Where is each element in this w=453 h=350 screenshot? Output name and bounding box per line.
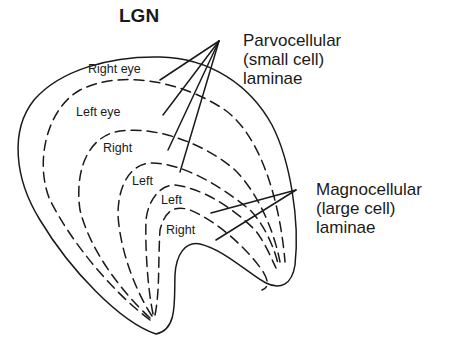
layer-label-right-eye: Right eye [88, 63, 141, 76]
magnocellular-callout: Magnocellular (large cell) laminae [316, 180, 422, 237]
parvocellular-line-1: Parvocellular [243, 31, 341, 50]
layer-label-left-4: Left [132, 175, 153, 188]
layer-label-right-6: Right [166, 224, 195, 237]
parvocellular-callout: Parvocellular (small cell) laminae [243, 31, 341, 88]
magnocellular-line-1: Magnocellular [316, 180, 422, 199]
magnocellular-pointer-lines [211, 190, 296, 240]
lgn-diagram [0, 0, 453, 350]
magnocellular-line-2: (large cell) [316, 199, 422, 218]
layer-label-right-3: Right [103, 142, 132, 155]
diagram-title: LGN [119, 6, 159, 25]
parvocellular-line-3: laminae [243, 69, 341, 88]
magnocellular-line-3: laminae [316, 218, 422, 237]
layer-label-left-5: Left [161, 194, 182, 207]
layer-label-left-eye: Left eye [76, 106, 120, 119]
parvocellular-line-2: (small cell) [243, 50, 341, 69]
